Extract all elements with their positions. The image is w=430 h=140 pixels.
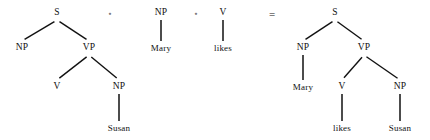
tree-nonterminal-label: NP	[297, 43, 310, 53]
composition-operator-2: ∘	[194, 11, 197, 18]
composition-operator-1: ∘	[108, 11, 111, 18]
syntax-tree-figure: SNPVPVNPSusanNPMaryVlikesSNPVPMaryVNPlik…	[0, 0, 430, 140]
tree-edge	[91, 57, 116, 78]
tree-nonterminal-label: NP	[394, 82, 407, 92]
tree-terminal-label: likes	[333, 124, 351, 133]
tree-nonterminal-label: NP	[16, 43, 29, 53]
tree-nonterminal-label: S	[332, 8, 337, 18]
tree-nonterminal-label: V	[338, 82, 345, 92]
tree-nonterminal-label: V	[53, 82, 60, 92]
tree-terminal-label: Susan	[389, 124, 412, 133]
tree-edge	[344, 57, 362, 77]
tree-nonterminal-label: VP	[358, 43, 371, 53]
tree-nonterminal-label: NP	[155, 8, 168, 18]
equals-operator: =	[269, 9, 275, 20]
tree-nonterminal-label: VP	[83, 43, 96, 53]
tree-edge-layer	[0, 0, 430, 140]
tree-edge	[60, 22, 87, 40]
tree-edge	[25, 22, 55, 40]
tree-nonterminal-label: NP	[113, 82, 126, 92]
tree-edge	[337, 22, 361, 39]
tree-edge	[306, 22, 333, 40]
tree-edge	[59, 57, 86, 78]
tree-terminal-label: Mary	[293, 83, 313, 92]
tree-terminal-label: Susan	[108, 124, 131, 133]
tree-terminal-label: Mary	[151, 44, 171, 53]
tree-nonterminal-label: V	[219, 8, 226, 18]
tree-edge	[366, 57, 397, 79]
tree-nonterminal-label: S	[54, 8, 59, 18]
tree-terminal-label: likes	[214, 44, 232, 53]
